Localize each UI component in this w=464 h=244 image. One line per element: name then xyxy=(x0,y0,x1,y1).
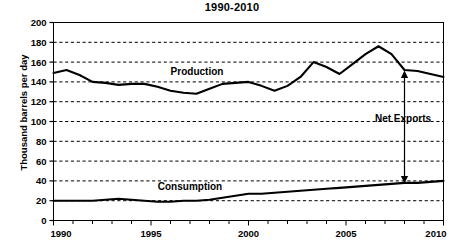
series-label-production: Production xyxy=(171,66,224,77)
x-axis-minor-ticks xyxy=(54,221,444,226)
x-axis-tick-label: 1995 xyxy=(140,228,162,239)
plot-svg: 020406080100120140160180200 199019952000… xyxy=(0,0,464,244)
x-axis-tick-label: 2005 xyxy=(335,228,357,239)
y-axis-tick-label: 200 xyxy=(31,17,47,28)
annotation-label-net-exports: Net Exports xyxy=(375,113,432,124)
chart-container: 1990-2010 Thousand barrels per day 02040… xyxy=(0,0,464,244)
y-axis-tick-label: 100 xyxy=(31,116,47,127)
y-axis-tick-label: 60 xyxy=(36,156,47,167)
y-axis-tick-label: 140 xyxy=(31,76,47,87)
y-axis-tick-label: 0 xyxy=(41,215,46,226)
net-exports-arrowhead-up xyxy=(401,71,408,79)
y-axis-tick-label: 160 xyxy=(31,57,47,68)
x-axis-tick-labels: 19901995200020052010 xyxy=(51,228,447,239)
series-line-production xyxy=(54,46,444,94)
y-axis-tick-label: 20 xyxy=(36,195,47,206)
y-axis-tick-label: 40 xyxy=(36,175,47,186)
x-axis-tick-label: 1990 xyxy=(51,228,72,239)
y-axis-tick-label: 180 xyxy=(31,37,47,48)
y-axis-ticks xyxy=(50,23,54,221)
series-line-consumption xyxy=(54,181,444,202)
x-axis-tick-label: 2010 xyxy=(425,228,446,239)
net-exports-arrow xyxy=(401,71,408,184)
series-label-consumption: Consumption xyxy=(158,181,222,192)
x-axis-tick-label: 2000 xyxy=(238,228,259,239)
y-axis-tick-labels: 020406080100120140160180200 xyxy=(31,17,47,226)
y-axis-tick-label: 80 xyxy=(36,136,47,147)
y-axis-tick-label: 120 xyxy=(31,96,47,107)
